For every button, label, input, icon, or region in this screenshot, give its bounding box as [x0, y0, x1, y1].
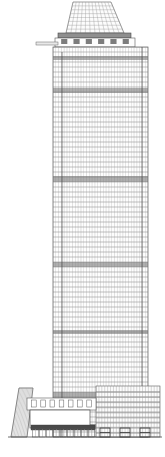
architectural-elevation-drawing	[0, 0, 165, 457]
crown-base-block	[55, 38, 135, 47]
crown-cap-rect	[58, 33, 131, 38]
crown-cap-band	[58, 33, 131, 38]
mast-rect	[36, 42, 58, 45]
outrigger-mast	[36, 42, 58, 45]
elevation-canvas	[0, 0, 165, 457]
main-tower-shaft	[53, 47, 148, 437]
